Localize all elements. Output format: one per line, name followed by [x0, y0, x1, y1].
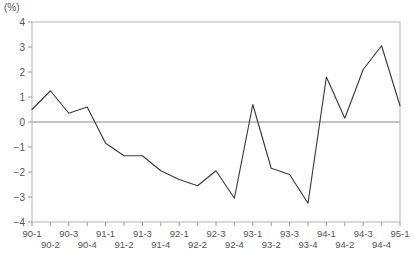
x-tick-label: 90-4	[78, 239, 97, 250]
y-tick-label: 0	[19, 117, 25, 128]
x-tick-label: 95-1	[390, 228, 409, 239]
x-tick-label: 94-1	[317, 228, 336, 239]
y-tick-label: 1	[19, 92, 25, 103]
y-tick-label: 4	[19, 17, 25, 28]
x-tick-label: 91-3	[133, 228, 152, 239]
x-tick-label: 90-3	[59, 228, 78, 239]
x-tick-label: 93-2	[262, 239, 281, 250]
x-tick-label: 93-3	[280, 228, 299, 239]
y-tick-label: −2	[14, 167, 26, 178]
y-tick-label: −4	[14, 217, 26, 228]
x-axis-tick-labels: 90-190-290-390-491-191-291-391-492-192-2…	[22, 228, 409, 250]
y-tick-label: 2	[19, 67, 25, 78]
line-chart-svg: 43210−1−2−3−4 90-190-290-390-491-191-291…	[0, 0, 414, 271]
y-tick-label: 3	[19, 42, 25, 53]
x-tick-label: 90-2	[41, 239, 60, 250]
x-tick-label: 92-2	[188, 239, 207, 250]
x-tick-label: 94-4	[372, 239, 391, 250]
y-tick-label: −1	[14, 142, 26, 153]
y-axis-ticks	[28, 22, 32, 222]
x-tick-label: 92-3	[206, 228, 225, 239]
x-tick-label: 92-1	[170, 228, 189, 239]
x-tick-label: 91-2	[114, 239, 133, 250]
x-tick-label: 91-4	[151, 239, 170, 250]
y-axis-tick-labels: 43210−1−2−3−4	[14, 17, 26, 228]
data-line-series-1	[32, 46, 400, 204]
x-tick-label: 93-1	[243, 228, 262, 239]
x-axis-ticks	[32, 222, 400, 226]
x-tick-label: 94-2	[335, 239, 354, 250]
x-tick-label: 91-1	[96, 228, 115, 239]
x-tick-label: 93-4	[298, 239, 317, 250]
x-tick-label: 92-4	[225, 239, 244, 250]
x-tick-label: 90-1	[22, 228, 41, 239]
y-tick-label: −3	[14, 192, 26, 203]
x-tick-label: 94-3	[354, 228, 373, 239]
chart-container: (%) 43210−1−2−3−4 90-190-290-390-491-191…	[0, 0, 414, 271]
